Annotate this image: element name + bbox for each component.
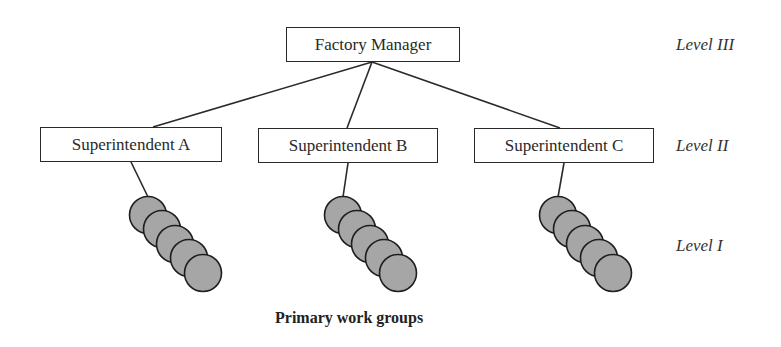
superintendent-c-box: Superintendent C [474, 128, 654, 163]
level-ii-label: Level II [676, 136, 728, 156]
work-group-b [325, 197, 417, 292]
superintendent-b-box: Superintendent B [258, 128, 438, 163]
superintendent-a-label: Superintendent A [72, 135, 191, 155]
org-chart-diagram: Factory Manager Superintendent A Superin… [0, 0, 781, 347]
superintendent-b-label: Superintendent B [289, 136, 408, 156]
superintendent-c-label: Superintendent C [505, 136, 624, 156]
work-group-a [130, 197, 222, 292]
level-i-label: Level I [676, 236, 723, 256]
level-iii-label: Level III [676, 35, 734, 55]
work-group-c [540, 197, 632, 292]
factory-manager-label: Factory Manager [315, 35, 432, 55]
superintendent-a-box: Superintendent A [40, 127, 222, 162]
primary-work-groups-caption: Primary work groups [275, 309, 423, 327]
factory-manager-box: Factory Manager [286, 27, 460, 62]
